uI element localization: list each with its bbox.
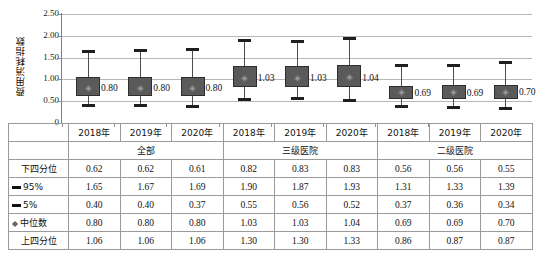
table-row: 95%1.651.671.691.901.871.931.311.331.39 xyxy=(9,178,533,196)
y-tick-label: 1.50 xyxy=(33,53,59,62)
table-cell: 1.06 xyxy=(69,232,121,250)
y-tick-label: 2.50 xyxy=(33,9,59,18)
box-plot-8: 0.69 xyxy=(442,14,466,123)
median-value-label: 0.70 xyxy=(519,87,536,97)
table-cell: 0.69 xyxy=(378,214,430,232)
y-axis-tick-labels: 00.501.001.502.002.50 xyxy=(29,0,59,124)
whisker-legend-icon xyxy=(12,204,21,207)
table-cell: 0.37 xyxy=(378,196,430,214)
chart-area: 费用消耗指数 00.501.001.502.002.50 0.800.800.8… xyxy=(0,0,539,124)
median-value-label: 1.03 xyxy=(310,73,327,83)
lower-cap xyxy=(343,99,356,102)
table-cell: 0.80 xyxy=(120,214,172,232)
upper-cap xyxy=(82,50,95,53)
table-cell: 0.56 xyxy=(378,160,430,178)
table-cell: 1.39 xyxy=(481,178,533,196)
table-row-label: 上四分位 xyxy=(9,232,69,250)
median-value-label: 0.80 xyxy=(206,83,223,93)
y-tick-mark xyxy=(57,14,61,15)
box-plot-1: 0.80 xyxy=(76,14,100,123)
median-value-label: 1.04 xyxy=(362,73,379,83)
y-tick-mark xyxy=(57,58,61,59)
data-table-wrapper: 2018年2019年2020年2018年2019年2020年2018年2019年… xyxy=(8,123,532,263)
upper-whisker xyxy=(505,62,506,85)
table-cell: 0.55 xyxy=(223,196,275,214)
upper-whisker xyxy=(244,40,245,66)
table-cell: 0.87 xyxy=(481,232,533,250)
table-header-year: 2020年 xyxy=(481,124,533,142)
plot-region: 0.800.800.801.031.031.040.690.690.70 xyxy=(62,14,532,123)
table-cell: 0.55 xyxy=(481,160,533,178)
table-cell: 0.56 xyxy=(275,196,327,214)
table-cell: 1.30 xyxy=(223,232,275,250)
table-cell: 0.52 xyxy=(326,196,378,214)
table-cell: 0.36 xyxy=(429,196,481,214)
table-row-label: 95% xyxy=(9,178,69,196)
upper-cap xyxy=(134,49,147,52)
median-value-label: 1.03 xyxy=(258,73,275,83)
upper-whisker xyxy=(401,66,402,86)
median-legend-icon xyxy=(12,221,18,227)
table-header-group: 三级医院 xyxy=(223,142,378,160)
table-cell: 0.82 xyxy=(223,160,275,178)
table-cell: 0.56 xyxy=(429,160,481,178)
lower-cap xyxy=(447,106,460,109)
lower-cap xyxy=(186,105,199,108)
lower-cap xyxy=(499,107,512,110)
lower-cap xyxy=(395,105,408,108)
table-row: 5%0.400.400.370.550.560.520.370.360.34 xyxy=(9,196,533,214)
table-cell: 1.06 xyxy=(120,232,172,250)
table-cell: 1.33 xyxy=(326,232,378,250)
upper-whisker xyxy=(88,51,89,77)
table-cell: 1.06 xyxy=(172,232,224,250)
table-cell: 1.03 xyxy=(223,214,275,232)
table-cell: 1.87 xyxy=(275,178,327,196)
upper-cap xyxy=(238,39,251,42)
box-plot-4: 1.03 xyxy=(233,14,257,123)
table-cell: 0.34 xyxy=(481,196,533,214)
table-cell: 0.69 xyxy=(429,214,481,232)
table-cell: 0.70 xyxy=(481,214,533,232)
table-cell: 0.80 xyxy=(172,214,224,232)
lower-cap xyxy=(134,104,147,107)
boxplot-figure: 费用消耗指数 00.501.001.502.002.50 0.800.800.8… xyxy=(0,0,539,265)
median-value-label: 0.80 xyxy=(101,83,118,93)
table-cell: 1.90 xyxy=(223,178,275,196)
box-plot-2: 0.80 xyxy=(128,14,152,123)
table-row: 下四分位0.620.620.610.820.830.830.560.560.55 xyxy=(9,160,533,178)
y-tick-mark xyxy=(57,36,61,37)
table-cell: 1.30 xyxy=(275,232,327,250)
table-row-label-text: 上四分位 xyxy=(21,236,57,246)
y-tick-label: 0.50 xyxy=(33,96,59,105)
table-header-groups-row: 全部三级医院二级医院 xyxy=(9,142,533,160)
table-cell: 0.62 xyxy=(120,160,172,178)
upper-whisker xyxy=(297,41,298,66)
table-row-label: 5% xyxy=(9,196,69,214)
table-header-group: 全部 xyxy=(69,142,224,160)
table-cell: 1.67 xyxy=(120,178,172,196)
table-header-year: 2018年 xyxy=(223,124,275,142)
table-cell: 0.40 xyxy=(120,196,172,214)
lower-cap xyxy=(82,104,95,107)
table-cell: 0.80 xyxy=(69,214,121,232)
table-header-year: 2020年 xyxy=(172,124,224,142)
y-axis-title: 费用消耗指数 xyxy=(14,18,28,114)
table-header-year: 2019年 xyxy=(275,124,327,142)
table-cell: 0.62 xyxy=(69,160,121,178)
table-cell: 0.83 xyxy=(326,160,378,178)
table-cell: 0.37 xyxy=(172,196,224,214)
table-header-year: 2020年 xyxy=(326,124,378,142)
table-row-label-text: 中位数 xyxy=(20,218,47,228)
box-plot-6: 1.04 xyxy=(337,14,361,123)
upper-cap xyxy=(395,64,408,67)
table-cell: 1.03 xyxy=(275,214,327,232)
upper-cap xyxy=(291,40,304,43)
y-tick-label: 1.00 xyxy=(33,74,59,83)
upper-whisker xyxy=(140,50,141,77)
table-cell: 0.87 xyxy=(429,232,481,250)
y-tick-mark xyxy=(57,101,61,102)
upper-cap xyxy=(343,37,356,40)
table-cell: 0.83 xyxy=(275,160,327,178)
table-row-label-text: 下四分位 xyxy=(21,164,57,174)
upper-whisker xyxy=(453,65,454,85)
